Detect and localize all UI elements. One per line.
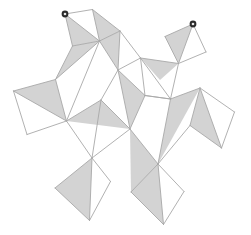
net-edge [92, 129, 130, 158]
net-edge [90, 182, 111, 221]
start-vertex-marker-center [64, 13, 67, 16]
polyhedron-net-diagram [0, 0, 251, 235]
net-edge [67, 121, 93, 158]
shaded-triangle [55, 158, 92, 221]
net-edge [222, 112, 235, 148]
net-edge [92, 158, 111, 182]
net-edge [179, 52, 207, 64]
net-edge [164, 192, 185, 225]
shaded-triangle [141, 58, 179, 80]
end-vertex-marker-center [192, 23, 195, 26]
net-edge [193, 24, 206, 52]
net-edge [118, 58, 141, 70]
net-edge [145, 96, 171, 100]
net-edge [101, 70, 118, 100]
shaded-triangle [14, 80, 67, 122]
vertex-markers-group [62, 11, 197, 28]
net-edge [65, 10, 93, 15]
net-edge [120, 31, 141, 58]
figure-canvas [0, 0, 251, 235]
shaded-triangle [67, 100, 131, 129]
net-edge [158, 164, 184, 192]
net-edge [27, 121, 67, 135]
shaded-triangle [118, 70, 145, 129]
